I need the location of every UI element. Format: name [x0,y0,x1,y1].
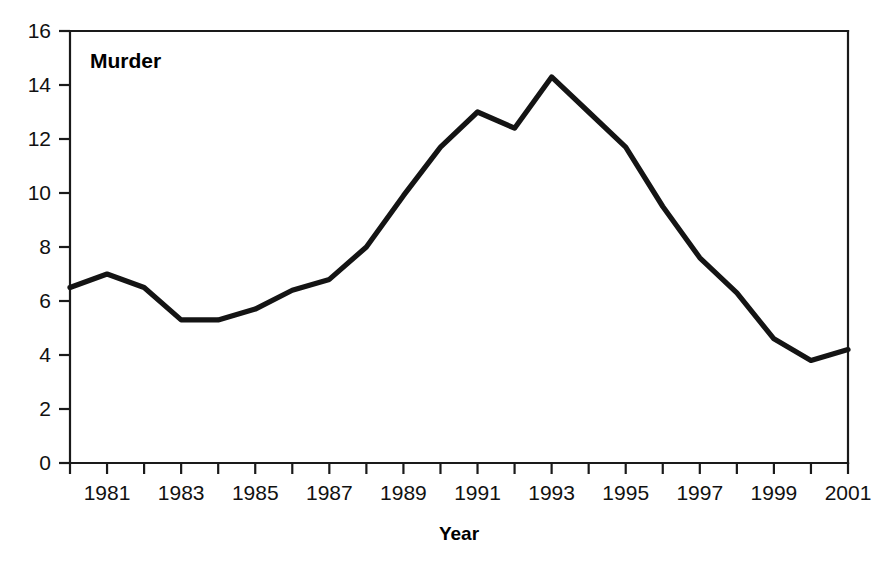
x-tick-label-2001: 2001 [825,481,872,504]
y-tick-label-14: 14 [28,73,52,96]
x-tick-label-1999: 1999 [751,481,798,504]
y-tick-label-2: 2 [39,397,51,420]
x-axis-tick-labels: 1981198319851987198919911993199519971999… [84,481,872,504]
x-tick-label-1985: 1985 [232,481,279,504]
y-tick-label-16: 16 [28,19,51,42]
x-tick-label-1983: 1983 [158,481,205,504]
y-tick-label-4: 4 [39,343,51,366]
x-tick-label-1991: 1991 [454,481,501,504]
x-tick-label-1993: 1993 [528,481,575,504]
x-tick-label-1995: 1995 [602,481,649,504]
x-tick-label-1987: 1987 [306,481,353,504]
y-tick-label-12: 12 [28,127,51,150]
series-label-murder: Murder [90,49,161,72]
y-tick-label-6: 6 [39,289,51,312]
chart-container: 0246810121416 19811983198519871989199119… [0,0,890,575]
x-tick-label-1989: 1989 [380,481,427,504]
x-tick-label-1981: 1981 [84,481,131,504]
line-chart: 0246810121416 19811983198519871989199119… [0,0,890,575]
x-tick-label-1997: 1997 [676,481,723,504]
y-tick-label-8: 8 [39,235,51,258]
x-axis-title: Year [439,523,480,544]
y-tick-label-10: 10 [28,181,51,204]
y-tick-label-0: 0 [39,451,51,474]
